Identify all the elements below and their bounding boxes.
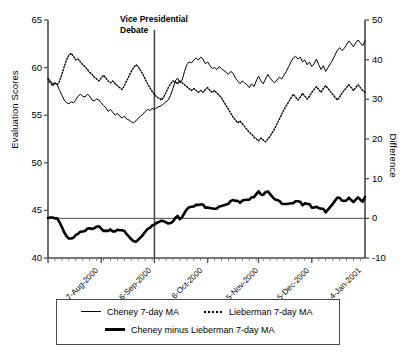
- y-tick-right--10: -10: [372, 252, 396, 263]
- y-tick-right-30: 30: [372, 93, 396, 104]
- legend-item-lieberman: Lieberman 7-day MA: [203, 307, 313, 317]
- legend-label-cheney: Cheney 7-day MA: [107, 307, 179, 317]
- y-tick-left-55: 55: [14, 109, 42, 120]
- y-axis-right-title: Difference: [388, 96, 399, 216]
- y-tick-right-50: 50: [372, 14, 396, 25]
- series-line-1: [48, 53, 365, 142]
- legend-item-cheney: Cheney 7-day MA: [81, 307, 179, 317]
- series-line-0: [48, 40, 365, 123]
- annotation-line-2: Debate: [120, 25, 212, 36]
- y-tick-left-60: 60: [14, 62, 42, 73]
- y-tick-left-65: 65: [14, 14, 42, 25]
- legend-label-difference: Cheney minus Lieberman 7-day MA: [131, 325, 275, 335]
- y-tick-right-20: 20: [372, 133, 396, 144]
- y-tick-right-40: 40: [372, 54, 396, 65]
- legend-item-difference: Cheney minus Lieberman 7-day MA: [105, 325, 275, 335]
- y-tick-left-40: 40: [14, 252, 42, 263]
- annotation-line-1: Vice Presidential: [120, 14, 212, 25]
- debate-annotation: Vice Presidential Debate: [120, 14, 212, 36]
- dotted-line-icon: [203, 307, 223, 317]
- series-line-2: [48, 191, 365, 241]
- chart-legend: Cheney 7-day MA Lieberman 7-day MA Chene…: [56, 299, 340, 345]
- thick-line-icon: [105, 325, 125, 335]
- solid-line-icon: [81, 307, 101, 317]
- chart-container: Evaluation Scores Difference 40455055606…: [0, 0, 412, 359]
- y-tick-right-10: 10: [372, 173, 396, 184]
- legend-label-lieberman: Lieberman 7-day MA: [229, 307, 313, 317]
- y-tick-left-45: 45: [14, 204, 42, 215]
- y-tick-left-50: 50: [14, 157, 42, 168]
- y-tick-right-0: 0: [372, 212, 396, 223]
